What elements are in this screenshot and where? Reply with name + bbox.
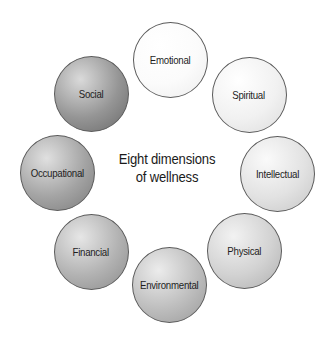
dimension-financial: Financial [54,214,129,290]
wellness-diagram: Eight dimensions of wellness Emotional S… [0,0,331,341]
dimension-physical: Physical [207,213,282,289]
dimension-environmental: Environmental [132,247,207,323]
dimension-emotional: Emotional [133,22,208,98]
dimension-label: Intellectual [255,168,298,180]
dimension-spiritual: Spiritual [212,57,287,133]
dimension-social: Social [54,56,129,132]
dimension-label: Occupational [30,167,83,179]
dimension-label: Financial [73,246,109,258]
diagram-title: Eight dimensions of wellness [112,150,222,186]
dimension-label: Physical [227,245,261,257]
title-line-2: of wellness [118,168,217,186]
dimension-intellectual: Intellectual [240,136,315,212]
dimension-occupational: Occupational [20,135,95,211]
dimension-label: Social [79,88,104,100]
dimension-label: Emotional [150,54,191,66]
title-line-1: Eight dimensions [118,150,217,168]
dimension-label: Environmental [140,279,198,291]
dimension-label: Spiritual [233,89,266,101]
